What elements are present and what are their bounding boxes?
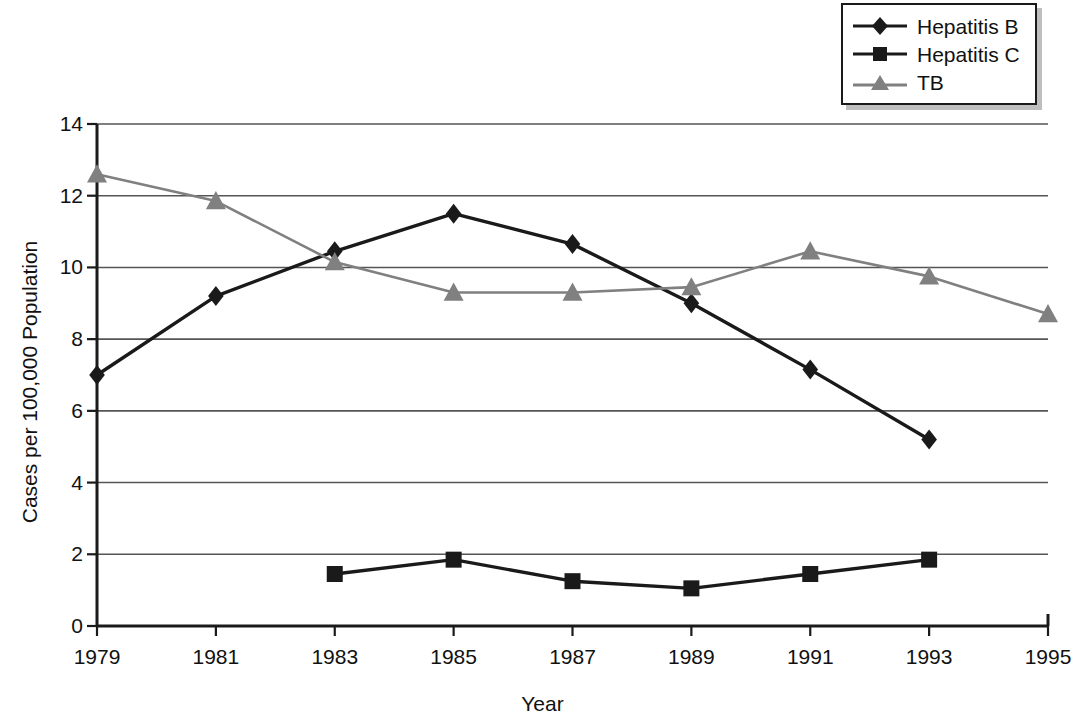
y-tick-label: 14 <box>7 113 83 134</box>
square-marker-icon <box>851 41 909 67</box>
x-tick-label: 1987 <box>523 646 623 667</box>
data-point-diamond <box>921 430 937 450</box>
gridlines <box>97 124 1048 626</box>
y-tick-label: 12 <box>7 185 83 206</box>
data-point-square <box>446 552 462 568</box>
line-chart: 02468101214 1979198119831985198719891991… <box>0 0 1085 727</box>
x-tick-label: 1981 <box>166 646 266 667</box>
y-axis-title: Cases per 100,000 Population <box>18 217 42 547</box>
legend-item-hepatitis-b[interactable]: Hepatitis B <box>851 12 1025 40</box>
legend-label-hepatitis-b: Hepatitis B <box>909 16 1019 37</box>
data-point-diamond <box>446 204 462 224</box>
diamond-marker-icon <box>851 13 909 39</box>
data-point-diamond <box>802 360 818 380</box>
data-point-square <box>683 580 699 596</box>
series-line <box>97 214 929 440</box>
data-point-square <box>327 566 343 582</box>
x-tick-label: 1989 <box>641 646 741 667</box>
legend-item-hepatitis-c[interactable]: Hepatitis C <box>851 40 1025 68</box>
data-point-diamond <box>89 365 105 385</box>
data-point-diamond <box>684 293 700 313</box>
x-tick-label: 1991 <box>760 646 860 667</box>
legend-label-tb: TB <box>909 72 944 93</box>
axes <box>97 124 1048 626</box>
series-hepatitis-b <box>89 204 937 450</box>
x-tick-label: 1979 <box>47 646 147 667</box>
series-line <box>335 560 929 589</box>
data-point-diamond <box>565 234 581 254</box>
x-tick-label: 1985 <box>404 646 504 667</box>
data-point-square <box>802 566 818 582</box>
data-point-square <box>565 573 581 589</box>
x-tick-label: 1993 <box>879 646 979 667</box>
data-point-square <box>921 552 937 568</box>
x-tick-label: 1983 <box>285 646 385 667</box>
legend-item-tb[interactable]: TB <box>851 68 1025 96</box>
data-point-diamond <box>208 286 224 306</box>
x-axis-title: Year <box>0 692 1085 716</box>
data-series-layer <box>87 164 1058 596</box>
data-point-triangle <box>87 164 107 182</box>
legend-label-hepatitis-c: Hepatitis C <box>909 44 1020 65</box>
y-tick-label: 0 <box>7 615 83 636</box>
chart-legend: Hepatitis B Hepatitis C TB <box>841 3 1037 105</box>
series-hepatitis-c <box>327 552 937 597</box>
triangle-marker-icon <box>851 69 909 95</box>
data-point-triangle <box>800 241 820 259</box>
x-tick-label: 1995 <box>998 646 1085 667</box>
plot-canvas <box>0 0 1085 727</box>
